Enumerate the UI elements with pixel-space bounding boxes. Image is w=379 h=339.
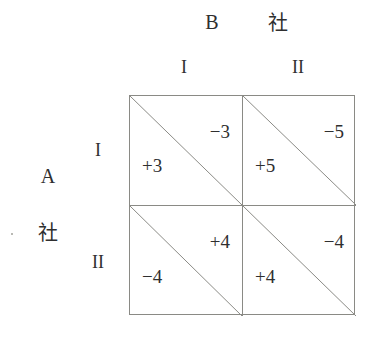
scan-artifact-speck: [11, 233, 13, 235]
matrix-cell-row2-col2: −4 +4: [243, 206, 356, 316]
cell-diagonal-icon: [243, 206, 356, 316]
cell-diagonal-icon: [130, 206, 242, 316]
column-payoff-row2-col2: −4: [324, 232, 344, 251]
column-player-suffix: 社: [268, 13, 288, 33]
column-payoff-row2-col1: +4: [210, 232, 230, 251]
row-payoff-row1-col1: +3: [142, 156, 162, 175]
row-player-suffix: 社: [38, 223, 58, 243]
row-payoff-row2-col2: +4: [255, 267, 275, 286]
column-strategy-label-1: I: [181, 58, 187, 76]
column-payoff-row1-col2: −5: [324, 122, 344, 141]
column-strategy-label-2: II: [292, 58, 304, 76]
column-player-name: B: [205, 12, 218, 32]
row-strategy-label-1: I: [95, 141, 101, 159]
row-player-name: A: [41, 166, 55, 186]
matrix-cell-row1-col1: −3 +3: [130, 96, 243, 206]
payoff-matrix-figure: B 社 I II A 社 I II −3 +3 −5 +5: [0, 0, 379, 339]
matrix-cell-row2-col1: +4 −4: [130, 206, 243, 316]
matrix-grid: −3 +3 −5 +5 +4 −4 −4 +4: [129, 95, 355, 315]
row-strategy-label-2: II: [92, 253, 104, 271]
cell-diagonal-icon: [130, 96, 242, 205]
column-payoff-row1-col1: −3: [210, 122, 230, 141]
row-payoff-row2-col1: −4: [142, 267, 162, 286]
matrix-cell-row1-col2: −5 +5: [243, 96, 356, 206]
cell-diagonal-icon: [243, 96, 356, 205]
row-payoff-row1-col2: +5: [255, 156, 275, 175]
